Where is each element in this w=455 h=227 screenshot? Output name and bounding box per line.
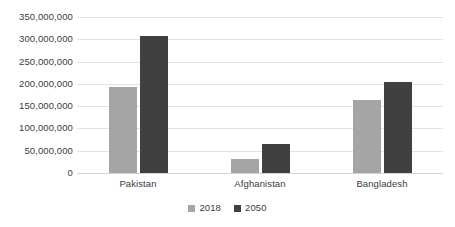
legend-swatch-icon	[234, 205, 241, 212]
bar	[353, 100, 381, 173]
bar-group	[231, 17, 290, 173]
bar	[109, 87, 137, 173]
gridline	[77, 173, 443, 174]
y-tick-label: 100,000,000	[0, 123, 73, 133]
x-tick-label: Afghanistan	[234, 178, 285, 190]
bar	[384, 82, 412, 173]
y-tick-label: 250,000,000	[0, 57, 73, 67]
y-tick-label: 350,000,000	[0, 12, 73, 22]
chart-legend: 20182050	[0, 203, 455, 213]
legend-label: 2018	[199, 203, 221, 213]
bar	[262, 144, 290, 173]
bar	[231, 159, 259, 173]
y-tick-label: 300,000,000	[0, 34, 73, 44]
bar	[140, 36, 168, 173]
x-tick-label: Bangladesh	[356, 178, 407, 190]
bar-group	[109, 17, 168, 173]
y-tick-label: 50,000,000	[0, 146, 73, 156]
x-tick-label: Pakistan	[119, 178, 156, 190]
y-tick-label: 150,000,000	[0, 101, 73, 111]
plot-area	[77, 17, 443, 173]
legend-item[interactable]: 2018	[188, 203, 221, 213]
y-tick-label: 0	[0, 168, 73, 178]
legend-swatch-icon	[188, 205, 195, 212]
bar-group	[353, 17, 412, 173]
y-tick-label: 200,000,000	[0, 79, 73, 89]
x-axis: PakistanAfghanistanBangladesh	[0, 178, 455, 192]
bar-chart: 050,000,000100,000,000150,000,000200,000…	[0, 0, 455, 227]
legend-label: 2050	[245, 203, 267, 213]
y-axis: 050,000,000100,000,000150,000,000200,000…	[0, 0, 73, 227]
legend-item[interactable]: 2050	[234, 203, 267, 213]
